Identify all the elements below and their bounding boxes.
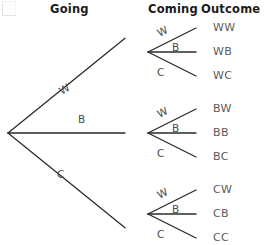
stage2-edge-label-2-c: C (157, 66, 164, 78)
diagram-canvas: Going Coming Outcome WBCWBCWBCWBCWWWBWCB… (0, 0, 266, 245)
stage2-edge-label-8-c: C (157, 228, 164, 240)
stage2-branch-cc (148, 214, 196, 238)
stage1-edge-label-c: C (57, 168, 64, 180)
outcome-label-wb: WB (213, 45, 232, 58)
outcome-label-bb: BB (213, 126, 229, 139)
outcome-label-cw: CW (213, 183, 232, 196)
outcome-label-cc: CC (213, 231, 229, 244)
stage2-edge-label-4-b: B (172, 122, 179, 134)
outcome-label-wc: WC (213, 69, 232, 82)
stage1-branch-c (8, 133, 125, 228)
stage2-edge-label-7-b: B (172, 203, 179, 215)
outcome-label-ww: WW (213, 21, 236, 34)
stage2-branch-bc (148, 133, 196, 157)
stage2-edge-label-1-b: B (172, 41, 179, 53)
outcome-label-cb: CB (213, 207, 229, 220)
stage2-branch-wc (148, 52, 196, 76)
outcome-label-bc: BC (213, 150, 229, 163)
stage2-edge-label-5-c: C (157, 147, 164, 159)
outcome-label-bw: BW (213, 102, 232, 115)
stage1-edge-label-b: B (78, 113, 85, 125)
